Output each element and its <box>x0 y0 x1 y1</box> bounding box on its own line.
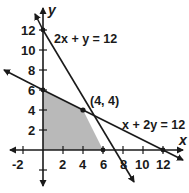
graph: -2 2 4 6 8 10 12 2 4 6 8 10 12 y x 2x + … <box>0 0 189 193</box>
x-tick-label: 6 <box>100 157 107 172</box>
line-x-plus-2y-eq-12 <box>4 70 43 90</box>
y-tick-label: 8 <box>28 63 35 78</box>
x-tick-label: 8 <box>120 157 127 172</box>
y-tick-label: 12 <box>21 23 35 38</box>
y-tick-label: 2 <box>28 123 35 138</box>
x-tick-label: 10 <box>135 157 149 172</box>
x-tick-label: -2 <box>12 157 24 172</box>
y-tick-label: 6 <box>28 83 35 98</box>
y-tick-label: 4 <box>28 103 36 118</box>
equation-label-x-plus-2y: x + 2y = 12 <box>122 118 185 132</box>
equation-label-2x-plus-y: 2x + y = 12 <box>54 32 117 46</box>
y-axis-label: y <box>47 2 57 18</box>
x-tick-label: 4 <box>79 157 87 172</box>
y-tick-label: 10 <box>21 43 35 58</box>
intersection-label: (4, 4) <box>90 94 119 108</box>
x-axis-label: x <box>178 132 188 148</box>
x-tick-label: 2 <box>59 157 66 172</box>
line-2x-plus-y-eq-12 <box>35 14 43 30</box>
x-tick-label: 12 <box>156 157 170 172</box>
